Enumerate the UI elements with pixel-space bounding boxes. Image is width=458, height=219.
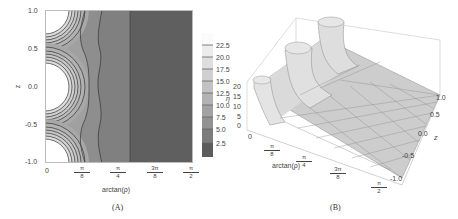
x-tick-frac: 3π8 xyxy=(330,166,346,181)
z-tick: 15 xyxy=(233,93,241,100)
z-tick: 5 xyxy=(237,113,241,120)
x-tick-frac: π2 xyxy=(371,180,387,195)
colorbar-tick: 10.0 xyxy=(216,102,230,109)
x-tick-frac: π2 xyxy=(183,165,199,180)
colorbar-tick: 7.5 xyxy=(216,114,226,121)
caption-a: (A) xyxy=(112,203,123,212)
x-tick-frac: 3π8 xyxy=(147,165,163,180)
depth-tick: 0.5 xyxy=(430,111,440,118)
contour-plot xyxy=(45,10,193,163)
y-tick: -1.0 xyxy=(25,158,37,165)
depth-tick: -0.5 xyxy=(402,152,414,159)
x-axis-label: arctan(ρ) xyxy=(102,186,130,193)
colorbar-tick: 17.5 xyxy=(216,66,230,73)
x-tick-frac: π8 xyxy=(264,143,280,158)
x-tick-frac: π4 xyxy=(110,165,126,180)
z-tick: 10 xyxy=(233,103,241,110)
x-tick-frac: π8 xyxy=(74,165,90,180)
depth-tick: 1.0 xyxy=(436,94,446,101)
y-axis-label: z xyxy=(14,85,21,89)
depth-axis-label: z xyxy=(434,134,438,141)
y-tick: 1.0 xyxy=(28,7,38,14)
surface-plot xyxy=(240,0,458,200)
colorbar xyxy=(202,33,213,157)
y-tick: 0.5 xyxy=(28,45,38,52)
depth-tick: -1.0 xyxy=(390,175,402,182)
colorbar-tick: 5.0 xyxy=(216,126,226,133)
caption-b: (B) xyxy=(330,203,341,212)
y-tick: -0.5 xyxy=(25,121,37,128)
x-axis-label: arctan(ρ) xyxy=(272,162,300,169)
z-tick: 20 xyxy=(233,83,241,90)
y-tick: 0.0 xyxy=(28,83,38,90)
x-tick: 0 xyxy=(248,133,252,140)
colorbar-tick: 15.0 xyxy=(216,78,230,85)
colorbar-tick: 2.5 xyxy=(216,140,226,147)
z-tick: 0 xyxy=(237,122,241,129)
depth-tick: 0.0 xyxy=(418,130,428,137)
x-tick: 0 xyxy=(45,167,49,174)
colorbar-tick: 22.5 xyxy=(216,42,230,49)
eta-axis-label: η xyxy=(226,95,230,102)
colorbar-tick: 20.0 xyxy=(216,54,230,61)
